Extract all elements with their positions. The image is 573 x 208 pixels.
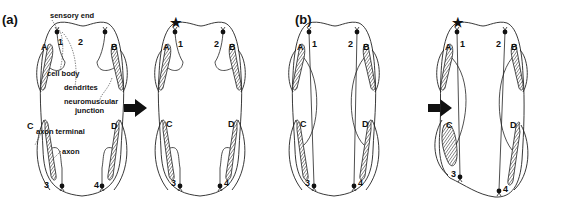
panel-a-label: (a): [2, 12, 18, 27]
annotation-junction: junction: [74, 106, 105, 115]
svg-text:C: C: [300, 119, 307, 129]
muscle-label-d: D: [111, 121, 118, 131]
svg-text:B: B: [229, 42, 236, 52]
neuron-label-3: 3: [44, 180, 49, 190]
svg-text:2: 2: [214, 39, 219, 49]
svg-text:1: 1: [460, 39, 465, 49]
annotation-axon-terminal: axon terminal: [36, 127, 85, 136]
svg-text:C: C: [166, 119, 173, 129]
svg-text:D: D: [510, 120, 517, 130]
annotation-cell-body: cell body: [47, 69, 80, 78]
svg-text:2: 2: [496, 39, 501, 49]
transition-arrow-a: [124, 99, 147, 117]
svg-text:4: 4: [358, 178, 363, 188]
svg-text:4: 4: [503, 184, 508, 194]
svg-text:4: 4: [224, 178, 229, 188]
svg-text:D: D: [362, 119, 369, 129]
annotation-neuromuscular: neuromuscular: [64, 97, 118, 106]
annotation-sensory-end: sensory end: [50, 11, 95, 20]
stimulus-star-icon: ★: [170, 15, 182, 30]
svg-text:C: C: [446, 120, 453, 130]
svg-text:B: B: [363, 42, 370, 52]
svg-text:A: A: [163, 42, 170, 52]
svg-text:A: A: [297, 42, 304, 52]
muscle-label-a: A: [41, 42, 48, 52]
svg-text:B: B: [511, 42, 518, 52]
svg-text:A: A: [445, 42, 452, 52]
svg-text:3: 3: [451, 169, 456, 179]
svg-text:3: 3: [171, 178, 176, 188]
svg-text:3: 3: [305, 178, 310, 188]
svg-text:2: 2: [348, 39, 353, 49]
panel-b-label: (b): [295, 12, 312, 27]
panel-a-body-2: A B C D 1 2 3 4 ★: [155, 15, 246, 196]
muscle-label-b: B: [111, 42, 118, 52]
neuromuscular-diagram-figure: (a) A B C D 1 2 3 4 sensory end cell bod…: [0, 0, 573, 208]
svg-text:1: 1: [312, 39, 317, 49]
svg-text:1: 1: [178, 39, 183, 49]
annotation-axon: axon: [62, 147, 80, 156]
neuron-label-4: 4: [94, 180, 99, 190]
svg-text:D: D: [228, 119, 235, 129]
panel-a-body-1: (a) A B C D 1 2 3 4 sensory end cell bod…: [2, 11, 127, 196]
muscle-label-c: C: [27, 121, 34, 131]
panel-b-body-1: (b) A B C D 1 2 3 4: [289, 12, 380, 196]
stimulus-star-icon: ★: [452, 15, 464, 30]
annotation-dendrites: dendrites: [64, 83, 98, 92]
neuron-label-2: 2: [78, 37, 83, 47]
